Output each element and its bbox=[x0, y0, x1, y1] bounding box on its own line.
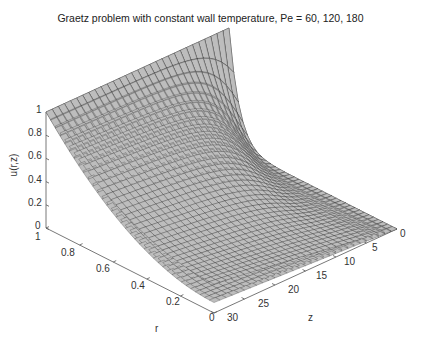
z-tick-mark bbox=[272, 284, 275, 286]
r-tick-mark bbox=[147, 278, 150, 279]
r-tick: 0.2 bbox=[166, 297, 180, 307]
z-tick: 15 bbox=[316, 271, 327, 281]
u-tick: 0 bbox=[35, 221, 41, 231]
u-axis-label: u(r,z) bbox=[9, 154, 19, 177]
u-tick-mark bbox=[46, 158, 49, 160]
u-tick-mark bbox=[46, 205, 49, 207]
z-tick: 25 bbox=[258, 299, 269, 309]
u-tick: 1 bbox=[36, 105, 42, 115]
u-tick: 0.6 bbox=[28, 151, 42, 161]
z-tick: 30 bbox=[227, 313, 238, 323]
r-tick-mark bbox=[113, 261, 116, 262]
z-axis-label: z bbox=[308, 313, 313, 323]
u-tick: 0.2 bbox=[28, 198, 42, 208]
r-tick: 0 bbox=[209, 313, 215, 323]
r-tick-mark bbox=[46, 227, 49, 228]
u-tick: 0.8 bbox=[28, 128, 42, 138]
r-tick: 0.4 bbox=[131, 281, 145, 291]
z-tick: 5 bbox=[372, 243, 378, 253]
z-tick: 0 bbox=[400, 229, 406, 239]
r-axis-label: r bbox=[155, 324, 158, 334]
u-tick-mark bbox=[46, 135, 49, 137]
z-tick-mark bbox=[333, 256, 336, 258]
r-tick-mark bbox=[180, 295, 183, 296]
surface-plot bbox=[0, 0, 421, 347]
r-tick: 1 bbox=[35, 232, 41, 242]
u-tick-mark bbox=[46, 182, 49, 184]
r-tick: 0.6 bbox=[96, 264, 110, 274]
z-tick-mark bbox=[242, 298, 245, 300]
chart-title: Graetz problem with constant wall temper… bbox=[0, 12, 421, 24]
u-tick: 0.4 bbox=[28, 175, 42, 185]
z-tick: 10 bbox=[344, 257, 355, 267]
r-tick-mark bbox=[80, 244, 83, 245]
z-tick: 20 bbox=[288, 285, 299, 295]
r-tick: 0.8 bbox=[61, 248, 75, 258]
z-tick-mark bbox=[303, 270, 306, 272]
